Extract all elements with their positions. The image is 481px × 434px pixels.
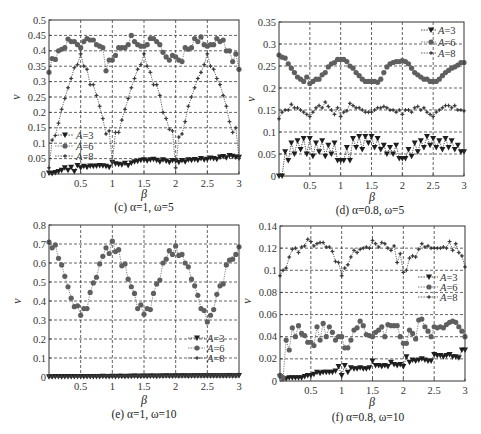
x-tick-label: 2.5 xyxy=(201,381,214,392)
legend-marker xyxy=(428,39,433,44)
x-tick-label: 1 xyxy=(338,180,343,191)
data-point-marker xyxy=(233,252,238,257)
data-point-marker xyxy=(78,313,83,318)
data-point-marker xyxy=(88,290,93,295)
y-tick-label: 0 xyxy=(272,376,277,387)
data-point-marker xyxy=(221,281,226,286)
y-tick-label: 0.02 xyxy=(259,353,277,364)
x-tick-label: 0.5 xyxy=(74,178,87,189)
data-point-marker xyxy=(345,345,350,350)
x-tick-label: 2 xyxy=(173,381,178,392)
data-point-marker xyxy=(324,334,329,339)
data-point-marker xyxy=(189,45,194,50)
x-tick-label: 0.5 xyxy=(304,385,317,396)
data-point-marker xyxy=(211,307,216,312)
x-tick-label: 3 xyxy=(236,178,241,189)
x-tick-label: 3 xyxy=(461,180,466,191)
x-tick-label: 2 xyxy=(173,178,178,189)
data-point-marker xyxy=(116,247,121,252)
data-point-marker xyxy=(230,257,235,262)
data-point-marker xyxy=(289,66,294,71)
data-point-marker xyxy=(91,37,96,42)
data-point-marker xyxy=(292,70,297,75)
legend-marker xyxy=(62,143,67,148)
y-tick-label: 0.15 xyxy=(28,122,46,133)
y-tick-label: 0.12 xyxy=(259,243,277,254)
data-point-marker xyxy=(321,321,326,326)
legend-marker xyxy=(426,284,431,289)
data-point-marker xyxy=(382,334,387,339)
data-point-marker xyxy=(59,262,64,267)
data-point-marker xyxy=(53,242,58,247)
legend-label: A=8 xyxy=(439,292,458,303)
data-point-marker xyxy=(157,278,162,283)
data-point-marker xyxy=(233,51,238,56)
data-point-marker xyxy=(211,42,216,47)
y-tick-label: 0.25 xyxy=(28,92,46,103)
data-point-marker xyxy=(280,375,285,380)
y-tick-label: 0.7 xyxy=(33,239,46,250)
data-point-marker xyxy=(100,45,105,50)
data-point-marker xyxy=(62,45,67,50)
panel-f-ylabel: v xyxy=(241,298,253,303)
data-point-marker xyxy=(453,320,458,325)
y-tick-label: 0.8 xyxy=(33,220,46,231)
y-tick-label: 0.25 xyxy=(258,61,276,72)
data-point-marker xyxy=(103,245,108,250)
y-tick-label: 0.04 xyxy=(259,331,278,342)
data-point-marker xyxy=(138,302,143,307)
data-point-marker xyxy=(354,325,359,330)
data-point-marker xyxy=(69,296,74,301)
x-tick-label: 0.5 xyxy=(74,381,87,392)
data-point-marker xyxy=(151,291,156,296)
y-tick-label: 0.06 xyxy=(259,309,277,320)
y-tick-label: 0.3 xyxy=(33,76,46,87)
data-point-marker xyxy=(293,334,298,339)
y-tick-label: 0.3 xyxy=(263,39,276,50)
data-point-marker xyxy=(301,79,306,84)
data-point-marker xyxy=(113,53,118,58)
y-tick-label: 0 xyxy=(41,169,46,180)
data-point-marker xyxy=(410,331,415,336)
panel-c-ylabel: v xyxy=(10,94,22,99)
panel-d-caption: (d) α=0.8, ω=5 xyxy=(336,205,405,217)
y-tick-label: 0.2 xyxy=(33,107,46,118)
panel-e-ylabel: v xyxy=(11,298,23,303)
y-tick-label: 0.6 xyxy=(33,258,46,269)
y-tick-label: 0.2 xyxy=(33,334,46,345)
data-point-marker xyxy=(91,280,96,285)
data-point-marker xyxy=(283,55,288,60)
data-point-marker xyxy=(406,61,411,66)
data-point-marker xyxy=(179,59,184,64)
chart-panel-f: 00.020.040.060.080.10.120.140.511.522.53… xyxy=(259,221,468,396)
data-point-marker xyxy=(208,313,213,318)
panel-f-caption: (f) α=0.8, ω=10 xyxy=(332,412,405,424)
data-point-marker xyxy=(381,70,386,75)
data-point-marker xyxy=(398,334,403,339)
data-point-marker xyxy=(179,252,184,257)
data-point-marker xyxy=(409,66,414,71)
data-point-marker xyxy=(428,334,433,339)
x-tick-label: 1 xyxy=(110,178,115,189)
data-point-marker xyxy=(358,319,363,324)
data-point-marker xyxy=(370,334,375,339)
data-point-marker xyxy=(419,316,424,321)
data-point-marker xyxy=(302,333,307,338)
data-point-marker xyxy=(65,284,70,289)
data-point-marker xyxy=(107,251,112,256)
data-point-marker xyxy=(167,57,172,62)
data-point-marker xyxy=(129,33,134,38)
data-point-marker xyxy=(195,293,200,298)
data-point-marker xyxy=(456,324,461,329)
x-tick-label: 1 xyxy=(110,381,115,392)
x-tick-label: 3 xyxy=(462,385,467,396)
data-point-marker xyxy=(339,334,344,339)
data-point-marker xyxy=(221,37,226,42)
panel-f-xlabel: β xyxy=(369,396,375,408)
data-point-marker xyxy=(195,39,200,44)
data-point-marker xyxy=(97,261,102,266)
data-point-marker xyxy=(311,343,316,348)
data-point-marker xyxy=(62,274,67,279)
data-point-marker xyxy=(323,70,328,75)
y-tick-label: 0.4 xyxy=(33,296,47,307)
